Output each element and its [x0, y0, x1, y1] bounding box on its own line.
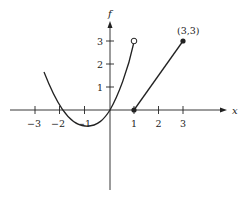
y-tick-label: 2: [97, 59, 103, 70]
x-axis-arrow-icon: [220, 108, 227, 113]
function-graph: −3 −2 −1 1 2 3 1 2 3 x f (3,3): [0, 0, 250, 197]
parabola-main: [44, 44, 134, 126]
y-tick-label: 1: [97, 82, 103, 93]
closed-endpoint-start: [131, 107, 136, 112]
y-tick-label: 3: [97, 36, 103, 47]
closed-endpoint-end: [180, 38, 185, 43]
x-tick-label: −3: [27, 118, 41, 129]
line-piece: [134, 41, 183, 110]
x-tick-label: −2: [51, 118, 65, 129]
point-annotation: (3,3): [177, 25, 200, 36]
y-axis-label: f: [107, 8, 114, 19]
x-tick-label: 3: [180, 118, 186, 129]
open-endpoint: [131, 38, 137, 44]
x-axis-label: x: [232, 105, 238, 116]
x-tick-label: 2: [156, 118, 162, 129]
x-tick-label: 1: [131, 118, 137, 129]
y-axis-arrow-icon: [108, 21, 113, 28]
x-tick-label: −1: [77, 118, 91, 129]
